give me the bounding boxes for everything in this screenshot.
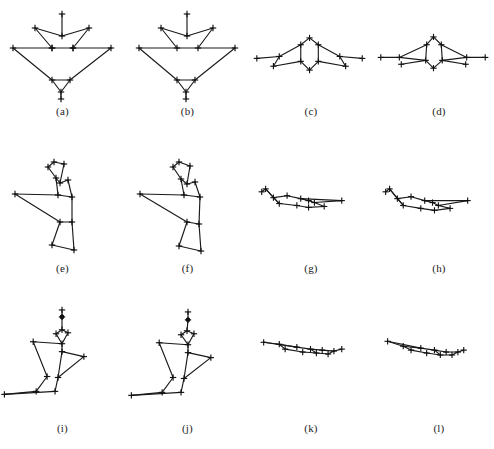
bone-segment — [179, 246, 201, 251]
bone-segment — [273, 198, 279, 204]
bone-segment — [186, 80, 195, 92]
bone-segment — [199, 224, 201, 251]
skeleton-plot-e — [0, 150, 125, 300]
joint-group — [254, 35, 366, 73]
bone-segment — [15, 194, 60, 222]
panel-caption-b: (b) — [125, 105, 250, 117]
bone-segment — [198, 28, 213, 48]
bone-segment — [159, 343, 188, 345]
panel-e[interactable]: (e) — [0, 150, 125, 300]
bone-segment — [62, 352, 84, 357]
panel-f[interactable]: (f) — [125, 150, 250, 300]
bone-segment — [442, 60, 465, 64]
skeleton-plot-b — [125, 0, 250, 150]
bone-segment — [58, 357, 84, 378]
bone-segment — [397, 199, 403, 206]
panel-i[interactable]: (i) — [0, 300, 125, 449]
bone-segment — [52, 80, 61, 92]
bone-segment — [62, 28, 89, 36]
bone-segment — [273, 56, 279, 66]
panel-caption-j: (j) — [125, 422, 250, 434]
bone-segment — [68, 180, 72, 197]
bone-segment — [199, 197, 200, 224]
panel-h[interactable]: (h) — [372, 150, 494, 300]
panel-caption-a: (a) — [0, 105, 125, 117]
bone-segment — [140, 194, 184, 195]
bone-segment — [48, 167, 56, 178]
bone-segment — [340, 56, 362, 58]
bone-segment — [399, 57, 425, 60]
bone-group — [140, 162, 201, 251]
joint-group — [1, 307, 87, 398]
bone-segment — [56, 330, 62, 334]
bone-segment — [427, 37, 434, 45]
bone-segment — [195, 182, 200, 197]
bone-segment — [181, 331, 187, 335]
bone-segment — [62, 333, 68, 344]
skeleton-plot-g — [250, 150, 372, 300]
bone-segment — [140, 194, 187, 222]
bone-segment — [301, 61, 310, 70]
bone-segment — [173, 162, 179, 167]
bone-segment — [438, 201, 467, 206]
panel-caption-h: (h) — [378, 262, 494, 274]
bone-segment — [162, 377, 173, 392]
panel-caption-f: (f) — [125, 262, 250, 274]
panel-k[interactable]: (k) — [250, 300, 372, 449]
bone-segment — [195, 48, 235, 80]
bone-group — [13, 14, 111, 99]
panel-b[interactable]: (b) — [125, 0, 250, 150]
bone-segment — [426, 60, 434, 68]
skeleton-plot-c — [250, 0, 372, 150]
joint-group — [384, 338, 466, 358]
bone-group — [386, 189, 468, 210]
panel-caption-d: (d) — [378, 105, 494, 117]
bone-segment — [33, 342, 47, 377]
panel-j[interactable]: (j) — [125, 300, 250, 449]
bone-segment — [318, 61, 345, 66]
panel-c[interactable]: (c) — [250, 0, 372, 150]
skeleton-plot-a — [0, 0, 125, 150]
panel-caption-g: (g) — [250, 262, 372, 274]
bone-segment — [399, 45, 426, 58]
bone-segment — [442, 57, 466, 60]
bone-segment — [159, 343, 173, 378]
panel-caption-k: (k) — [250, 422, 372, 434]
bone-segment — [179, 162, 190, 166]
bone-group — [381, 37, 485, 68]
bone-segment — [184, 353, 188, 379]
bone-group — [257, 38, 362, 70]
bone-segment — [179, 222, 187, 246]
bone-segment — [52, 222, 60, 245]
bone-segment — [184, 358, 211, 379]
bone-segment — [273, 61, 300, 66]
bone-segment — [177, 80, 186, 92]
head-blob-icon — [186, 317, 191, 322]
figure-root: (a) (b) (c) (d) (e) (f) (g) — [0, 0, 494, 449]
bone-segment — [33, 342, 62, 344]
bone-segment — [48, 162, 54, 167]
panel-d[interactable]: (d) — [372, 0, 494, 150]
bone-segment — [257, 56, 279, 58]
panel-g[interactable]: (g) — [250, 150, 372, 300]
bone-segment — [15, 194, 58, 195]
bone-segment — [173, 167, 181, 179]
panel-l[interactable]: (l) — [372, 300, 494, 449]
joint-group — [128, 309, 214, 399]
panel-a[interactable]: (a) — [0, 0, 125, 150]
skeleton-plot-f — [125, 150, 250, 300]
joint-group — [137, 159, 204, 254]
bone-segment — [301, 38, 310, 45]
bone-segment — [310, 61, 319, 70]
bone-segment — [187, 28, 213, 36]
bone-segment — [52, 245, 74, 250]
bone-segment — [340, 56, 346, 66]
bone-segment — [58, 352, 62, 378]
bone-segment — [61, 80, 70, 92]
bone-segment — [314, 203, 324, 207]
joint-group — [378, 34, 489, 71]
bone-group — [139, 14, 235, 99]
bone-segment — [433, 60, 442, 68]
bone-segment — [13, 48, 52, 80]
bone-segment — [310, 38, 319, 45]
